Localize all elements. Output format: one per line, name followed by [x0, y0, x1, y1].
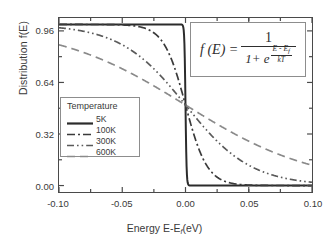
- formula-exponent: E - Ef kT: [271, 45, 292, 64]
- y-tick-label: 0.96: [20, 25, 54, 36]
- x-axis-tick-labels: -0.10-0.050.000.050.10: [0, 198, 329, 214]
- legend-line-swatch: [67, 147, 93, 156]
- legend-title: Temperature: [67, 101, 135, 111]
- legend-item-300K: 300K: [67, 135, 135, 146]
- x-axis-title: Energy E-Ef(eV): [0, 222, 329, 235]
- legend-box: Temperature 5K100K300K600K: [60, 97, 140, 157]
- y-tick-label: 0.32: [20, 129, 54, 140]
- formula-denominator-base: 1+ e: [245, 52, 269, 65]
- x-tick-label: -0.10: [36, 198, 80, 209]
- formula-exponent-subscript: f: [288, 47, 290, 55]
- y-tick-label: 0.64: [20, 77, 54, 88]
- x-axis-title-main: Energy E-E: [127, 222, 181, 234]
- formula-box: f (E) = 1 1+ e E - Ef kT: [190, 22, 306, 77]
- formula-exponent-numerator: E - Ef: [271, 45, 292, 55]
- legend-item-label: 300K: [96, 136, 116, 146]
- fermi-dirac-distribution-figure: Distribution f(E) 0.000.320.640.96 -0.10…: [0, 0, 329, 250]
- x-tick-label: 0.00: [164, 198, 208, 209]
- legend-item-label: 600K: [96, 147, 116, 157]
- legend-entries: 5K100K300K600K: [67, 113, 135, 157]
- legend-item-label: 100K: [96, 125, 116, 135]
- legend-item-100K: 100K: [67, 124, 135, 135]
- x-tick-label: 0.05: [227, 198, 271, 209]
- legend-line-swatch: [67, 125, 93, 134]
- formula-left-hand-side: f (E) =: [200, 42, 238, 58]
- formula-exponent-denominator: kT: [276, 56, 288, 64]
- y-tick-label: 0.00: [20, 181, 54, 192]
- legend-line-swatch: [67, 114, 93, 123]
- legend-item-5K: 5K: [67, 113, 135, 124]
- legend-item-600K: 600K: [67, 146, 135, 157]
- x-tick-label: 0.10: [291, 198, 329, 209]
- legend-item-label: 5K: [96, 114, 107, 124]
- formula-denominator: 1+ e E - Ef kT: [241, 47, 296, 68]
- x-axis-title-unit: (eV): [182, 222, 202, 234]
- x-tick-label: -0.05: [100, 198, 144, 209]
- formula-exponent-numerator-text: E - E: [273, 44, 288, 53]
- formula-fraction: 1 1+ e E - Ef kT: [241, 31, 296, 68]
- legend-line-swatch: [67, 136, 93, 145]
- formula-expression: f (E) = 1 1+ e E - Ef kT: [200, 31, 296, 68]
